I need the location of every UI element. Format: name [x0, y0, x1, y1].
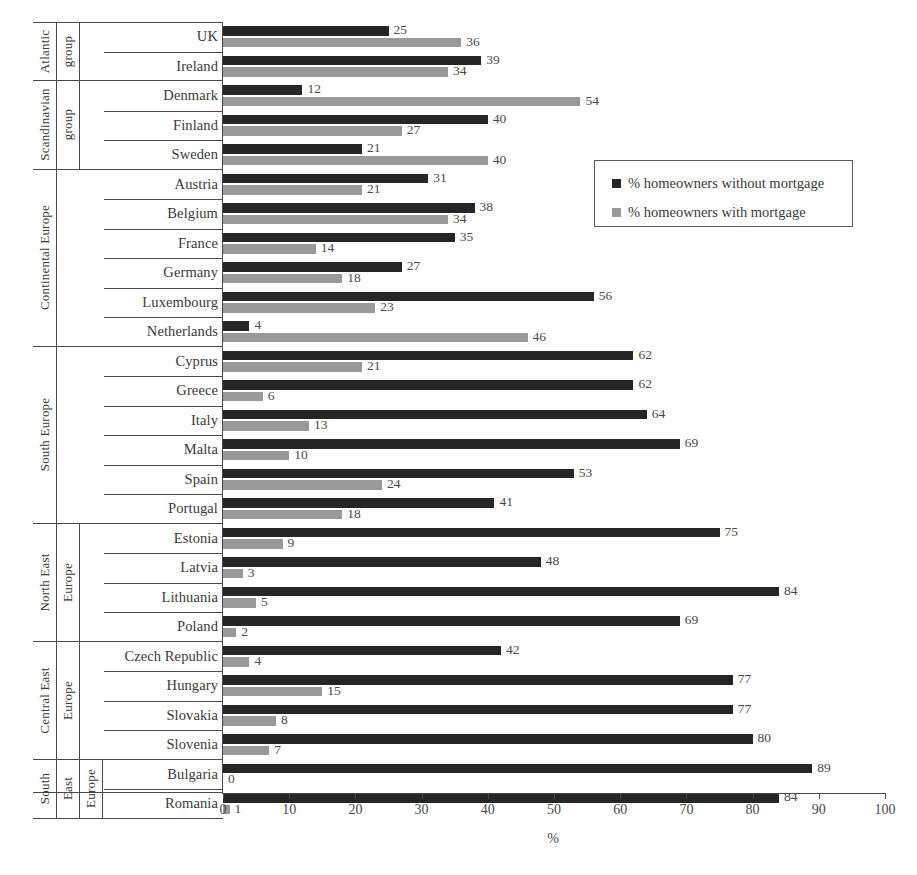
bar-group-greece: 626 [223, 376, 917, 406]
country-label-uk: UK [197, 22, 218, 52]
country-row: Latvia [33, 553, 223, 583]
x-tick [554, 793, 555, 799]
bar-with-mortgage [223, 628, 236, 638]
bar-without-mortgage-value: 12 [307, 82, 321, 96]
country-label-czech-republic: Czech Republic [124, 642, 218, 672]
bar-group-luxembourg: 5623 [223, 288, 917, 318]
country-label-italy: Italy [191, 406, 218, 436]
bar-without-mortgage [223, 292, 594, 302]
bar-without-mortgage-value: 64 [652, 407, 666, 421]
bar-with-mortgage-value: 9 [288, 536, 295, 550]
bar-group-italy: 6413 [223, 406, 917, 436]
country-row: Ireland [33, 52, 223, 82]
bar-without-mortgage-value: 62 [638, 348, 652, 362]
bar-without-mortgage-value: 27 [407, 259, 421, 273]
bar-group-bulgaria: 890 [223, 760, 917, 790]
bar-with-mortgage-value: 1 [235, 802, 242, 816]
bar-without-mortgage [223, 734, 753, 744]
bar-with-mortgage-value: 3 [248, 566, 255, 580]
bar-without-mortgage-value: 4 [254, 318, 261, 332]
x-tick-label: 90 [812, 802, 826, 818]
bar-with-mortgage-value: 18 [347, 271, 361, 285]
bar-without-mortgage-value: 69 [685, 613, 699, 627]
country-label-greece: Greece [176, 376, 218, 406]
legend-item-with-mortgage: % homeowners with mortgage [612, 201, 852, 223]
country-row: Czech Republic [33, 642, 223, 672]
bar-without-mortgage [223, 705, 733, 715]
bar-without-mortgage-value: 84 [784, 584, 798, 598]
bar-group-slovenia: 807 [223, 730, 917, 760]
bar-group-spain: 5324 [223, 465, 917, 495]
bar-with-mortgage-value: 21 [367, 359, 381, 373]
homeownership-bar-chart: AtlanticgroupScandinaviangroupContinenta… [0, 0, 917, 875]
bar-with-mortgage-value: 18 [347, 507, 361, 521]
country-row: Cyprus [33, 347, 223, 377]
x-tick [753, 793, 754, 799]
country-row: Austria [33, 170, 223, 200]
bar-with-mortgage-value: 36 [466, 35, 480, 49]
x-tick-label: 40 [481, 802, 495, 818]
bar-group-germany: 2718 [223, 258, 917, 288]
country-label-latvia: Latvia [180, 553, 218, 583]
bar-with-mortgage [223, 333, 528, 343]
bar-without-mortgage [223, 85, 302, 95]
bar-with-mortgage [223, 510, 342, 520]
country-label-spain: Spain [184, 465, 218, 495]
country-label-bulgaria: Bulgaria [167, 760, 218, 790]
bar-group-malta: 6910 [223, 435, 917, 465]
bar-with-mortgage [223, 362, 362, 372]
bar-without-mortgage [223, 616, 680, 626]
country-label-estonia: Estonia [174, 524, 218, 554]
country-row: Greece [33, 376, 223, 406]
bar-without-mortgage-value: 42 [506, 643, 520, 657]
bar-with-mortgage-value: 6 [268, 389, 275, 403]
x-tick [819, 793, 820, 799]
country-row: Lithuania [33, 583, 223, 613]
bar-with-mortgage-value: 14 [321, 241, 335, 255]
bar-with-mortgage [223, 185, 362, 195]
x-tick-label: 80 [746, 802, 760, 818]
bar-group-hungary: 7715 [223, 671, 917, 701]
bar-with-mortgage-value: 34 [453, 212, 467, 226]
bar-without-mortgage [223, 528, 720, 538]
legend-item-without-mortgage: % homeowners without mortgage [612, 172, 852, 194]
bar-without-mortgage [223, 793, 779, 803]
bar-without-mortgage [223, 587, 779, 597]
bar-with-mortgage-value: 7 [274, 743, 281, 757]
bar-without-mortgage-value: 25 [394, 23, 408, 37]
bar-without-mortgage-value: 31 [433, 171, 447, 185]
country-label-malta: Malta [184, 435, 218, 465]
bar-with-mortgage [223, 687, 322, 697]
country-label-netherlands: Netherlands [147, 317, 218, 347]
legend-label-with-mortgage: % homeowners with mortgage [628, 204, 806, 221]
bar-with-mortgage [223, 657, 249, 667]
bar-with-mortgage [223, 244, 316, 254]
country-row: Belgium [33, 199, 223, 229]
bar-without-mortgage [223, 262, 402, 272]
bar-group-ireland: 3934 [223, 52, 917, 82]
bar-group-lithuania: 845 [223, 583, 917, 613]
bar-without-mortgage-value: 41 [499, 495, 513, 509]
bar-group-latvia: 483 [223, 553, 917, 583]
country-label-slovakia: Slovakia [166, 701, 218, 731]
bar-without-mortgage [223, 26, 389, 36]
bar-without-mortgage [223, 380, 633, 390]
bar-group-portugal: 4118 [223, 494, 917, 524]
bar-group-denmark: 1254 [223, 81, 917, 111]
legend-swatch-icon-with-mortgage [612, 208, 621, 217]
bar-with-mortgage-value: 34 [453, 64, 467, 78]
country-label-slovenia: Slovenia [166, 730, 218, 760]
country-row: Denmark [33, 81, 223, 111]
bar-group-cyprus: 6221 [223, 347, 917, 377]
country-row: UK [33, 22, 223, 52]
bar-without-mortgage-value: 48 [546, 554, 560, 568]
x-tick-label: 10 [282, 802, 296, 818]
bar-with-mortgage [223, 215, 448, 225]
country-label-lithuania: Lithuania [162, 583, 218, 613]
country-label-denmark: Denmark [163, 81, 218, 111]
bar-without-mortgage-value: 35 [460, 230, 474, 244]
country-label-finland: Finland [173, 111, 218, 141]
bar-with-mortgage-value: 15 [327, 684, 341, 698]
bar-without-mortgage-value: 38 [480, 200, 494, 214]
x-tick [223, 793, 224, 799]
